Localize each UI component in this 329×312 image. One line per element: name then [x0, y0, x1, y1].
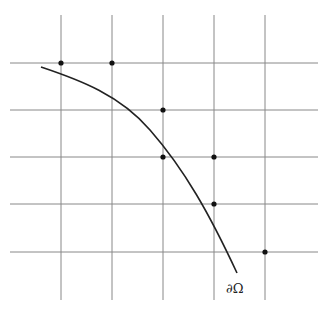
lattice-point	[160, 154, 165, 159]
lattice-point	[211, 201, 216, 206]
lattice-point	[211, 154, 216, 159]
lattice-point	[160, 107, 165, 112]
boundary-label: ∂Ω	[226, 281, 244, 296]
lattice-boundary-diagram: ∂Ω	[0, 0, 329, 312]
lattice-point	[262, 249, 267, 254]
lattice-point	[109, 60, 114, 65]
lattice-point	[58, 60, 63, 65]
boundary-curve	[41, 67, 237, 273]
